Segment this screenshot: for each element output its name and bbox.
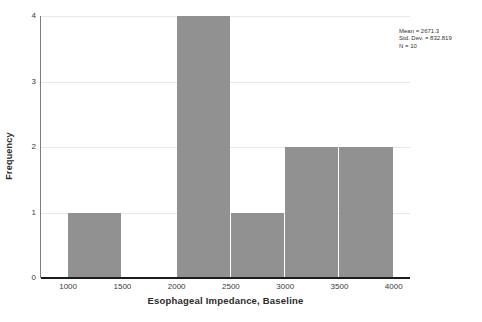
x-axis-tick-label: 3000 xyxy=(265,282,305,291)
x-axis-line xyxy=(41,277,410,279)
y-axis-tick-label: 1 xyxy=(20,209,36,217)
y-axis-title: Frequency xyxy=(4,106,18,206)
y-axis-tick-label: 4 xyxy=(20,12,36,20)
stat-mean: Mean = 2671.3 xyxy=(399,28,452,35)
histogram-bar xyxy=(177,16,230,278)
histogram-bar xyxy=(231,213,284,279)
x-axis-tick-label: 2000 xyxy=(157,282,197,291)
y-axis-tick-label: 0 xyxy=(20,274,36,282)
stat-std-dev: Std. Dev. = 832.819 xyxy=(399,35,452,42)
histogram-chart: Frequency 01234 100015002000250030003500… xyxy=(0,0,482,322)
x-axis-title: Esophageal Impedance, Baseline xyxy=(41,295,410,306)
x-axis-tick-label: 3500 xyxy=(319,282,359,291)
plot-area xyxy=(41,16,410,278)
stat-n: N = 10 xyxy=(399,43,452,50)
x-axis-tick-label: 1500 xyxy=(102,282,142,291)
statistics-annotation: Mean = 2671.3 Std. Dev. = 832.819 N = 10 xyxy=(399,28,452,50)
histogram-bar xyxy=(285,147,338,278)
histogram-bar xyxy=(68,213,121,279)
y-axis-tick-label: 2 xyxy=(20,143,36,151)
x-axis-tick-label: 4000 xyxy=(374,282,414,291)
x-axis-tick-label: 1000 xyxy=(48,282,88,291)
y-axis-tick-label: 3 xyxy=(20,78,36,86)
histogram-bar xyxy=(339,147,392,278)
x-axis-tick-label: 2500 xyxy=(211,282,251,291)
